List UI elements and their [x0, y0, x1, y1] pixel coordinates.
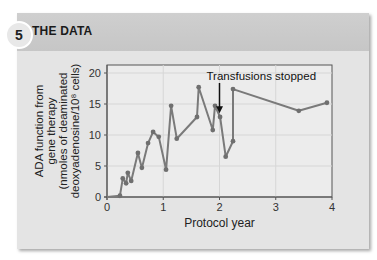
x-axis-label: Protocol year — [184, 216, 255, 230]
svg-text:1: 1 — [160, 201, 166, 213]
svg-text:15: 15 — [89, 98, 101, 110]
line-chart: 0510152001234 Transfusions stopped Proto… — [0, 0, 377, 260]
svg-text:10: 10 — [89, 129, 101, 141]
svg-text:0: 0 — [104, 201, 110, 213]
svg-text:deoxyadenosine/10⁸ cells): deoxyadenosine/10⁸ cells) — [69, 64, 81, 199]
svg-text:20: 20 — [89, 67, 101, 79]
svg-text:0: 0 — [95, 191, 101, 203]
svg-text:3: 3 — [273, 201, 279, 213]
svg-text:Transfusions stopped: Transfusions stopped — [207, 70, 317, 82]
svg-text:5: 5 — [95, 160, 101, 172]
svg-text:2: 2 — [216, 201, 222, 213]
svg-text:(nmoles of deaminated: (nmoles of deaminated — [57, 73, 69, 190]
svg-text:ADA function from: ADA function from — [33, 85, 45, 178]
svg-text:gene therapy: gene therapy — [45, 97, 57, 164]
svg-text:4: 4 — [329, 201, 335, 213]
y-axis-label: ADA function fromgene therapy(nmoles of … — [33, 64, 81, 199]
